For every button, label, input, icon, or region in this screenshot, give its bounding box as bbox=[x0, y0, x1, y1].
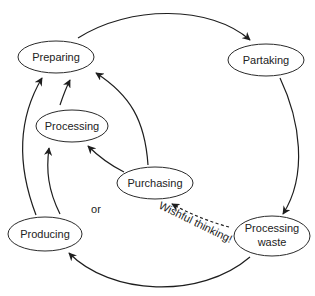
edge-partaking-to-processing-waste bbox=[280, 78, 299, 214]
node-label-producing: Producing bbox=[20, 228, 70, 240]
node-label-processing-waste-line1: Processing bbox=[245, 222, 299, 234]
node-partaking: Partaking bbox=[228, 44, 304, 76]
node-preparing: Preparing bbox=[18, 41, 94, 73]
edge-processing-to-preparing bbox=[60, 80, 70, 105]
node-processing: Processing bbox=[36, 110, 108, 142]
node-producing: Producing bbox=[8, 217, 82, 251]
node-label-processing: Processing bbox=[45, 120, 99, 132]
edge-processing-waste-to-producing bbox=[69, 253, 250, 287]
wishful-thinking-label: Wishful thinking! bbox=[157, 199, 234, 245]
node-label-purchasing: Purchasing bbox=[127, 177, 182, 189]
food-cycle-diagram: Preparing Partaking Processing Purchasin… bbox=[0, 0, 315, 296]
edge-preparing-to-partaking bbox=[78, 13, 250, 40]
edge-producing-to-processing bbox=[48, 148, 60, 214]
node-purchasing: Purchasing bbox=[117, 167, 193, 199]
or-label: or bbox=[91, 203, 101, 215]
node-label-processing-waste-line2: waste bbox=[257, 236, 287, 248]
edge-producing-to-preparing bbox=[23, 78, 42, 215]
node-label-partaking: Partaking bbox=[243, 54, 289, 66]
node-processing-waste: Processing waste bbox=[234, 216, 310, 256]
edge-purchasing-to-processing bbox=[88, 146, 124, 172]
node-label-preparing: Preparing bbox=[32, 51, 80, 63]
